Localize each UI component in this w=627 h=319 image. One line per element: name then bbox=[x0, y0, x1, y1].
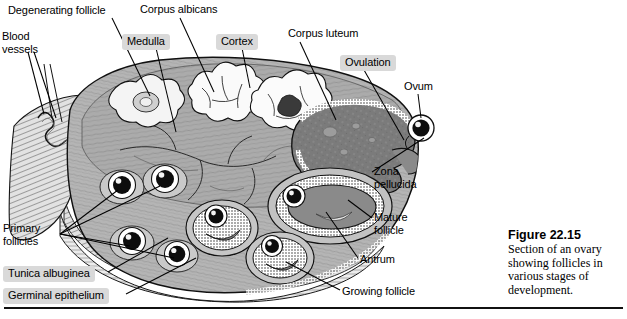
label-blood-vessels: Blood vessels bbox=[2, 30, 38, 55]
growing-follicle-art bbox=[186, 200, 258, 256]
label-antrum: Antrum bbox=[360, 253, 395, 266]
label-ovum: Ovum bbox=[404, 80, 433, 93]
label-medulla: Medulla bbox=[122, 34, 170, 50]
label-primary-follicles: Primary follicles bbox=[3, 222, 40, 247]
figure-ovary-section: Degenerating follicle Blood vessels Corp… bbox=[0, 0, 627, 319]
label-tunica-albuginea: Tunica albuginea bbox=[3, 266, 95, 282]
label-corpus-albicans: Corpus albicans bbox=[140, 3, 217, 16]
bottom-divider bbox=[4, 307, 623, 309]
label-cortex: Cortex bbox=[216, 34, 258, 50]
growing-follicle-art-2 bbox=[246, 232, 314, 284]
label-zona-pellucida: Zona pellucida bbox=[374, 165, 417, 190]
label-ovulation: Ovulation bbox=[340, 55, 396, 71]
label-growing-follicle: Growing follicle bbox=[342, 285, 415, 298]
figure-number: Figure 22.15 bbox=[508, 228, 620, 242]
label-degenerating-follicle: Degenerating follicle bbox=[8, 4, 106, 17]
figure-caption: Figure 22.15 Section of an ovary showing… bbox=[508, 228, 620, 297]
label-corpus-luteum: Corpus luteum bbox=[288, 27, 358, 40]
label-germinal-epithelium: Germinal epithelium bbox=[3, 288, 109, 304]
figure-caption-text: Section of an ovary showing follicles in… bbox=[508, 243, 620, 297]
label-mature-follicle: Mature follicle bbox=[374, 211, 408, 236]
